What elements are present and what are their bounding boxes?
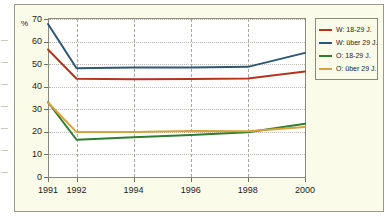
x-tick-mark [48, 178, 49, 182]
x-tick-mark [248, 178, 249, 182]
x-tick-mark [77, 178, 78, 182]
series-line-2 [48, 102, 305, 140]
chart-panel: % 70 60 50 40 30 20 10 0 1991 1992 1994 … [14, 4, 384, 212]
x-tick-label: 1992 [60, 185, 94, 195]
x-axis-line [48, 177, 306, 178]
y-tick-label: 60 [20, 37, 42, 46]
x-tick-label: 1994 [117, 185, 151, 195]
legend-item-label: W: über 29 J. [336, 39, 378, 47]
legend-item-label: O: 18-29 J. [336, 52, 371, 60]
legend-swatch-icon [319, 55, 332, 57]
x-tick-label: 1996 [174, 185, 208, 195]
y-tick-label: 0 [20, 173, 42, 182]
y-tick-label: 50 [20, 60, 42, 69]
legend-item[interactable]: W: 18-29 J. [319, 23, 374, 36]
legend-item-label: W: 18-29 J. [336, 26, 372, 34]
y-tick-label: 40 [20, 82, 42, 91]
series-layer [48, 19, 305, 177]
legend-item[interactable]: O: 18-29 J. [319, 49, 374, 62]
x-tick-mark [191, 178, 192, 182]
page-margin-strip [0, 0, 14, 219]
chart-screenshot: % 70 60 50 40 30 20 10 0 1991 1992 1994 … [0, 0, 387, 219]
legend-swatch-icon [319, 42, 332, 44]
legend-item[interactable]: O: über 29 J. [319, 62, 374, 75]
legend-item[interactable]: W: über 29 J. [319, 36, 374, 49]
series-line-3 [48, 103, 305, 133]
legend-swatch-icon [319, 29, 332, 31]
y-tick-label: 70 [20, 15, 42, 24]
y-tick-label: 30 [20, 105, 42, 114]
legend-swatch-icon [319, 68, 332, 70]
x-tick-mark [134, 178, 135, 182]
series-line-1 [48, 24, 305, 68]
legend-item-label: O: über 29 J. [336, 65, 376, 73]
y-tick-label: 10 [20, 150, 42, 159]
x-tick-mark [305, 178, 306, 182]
legend: W: 18-29 J. W: über 29 J. O: 18-29 J. O:… [315, 18, 378, 80]
series-line-0 [48, 49, 305, 79]
x-tick-label: 1998 [231, 185, 265, 195]
x-tick-label: 2000 [288, 185, 322, 195]
plot-right-border [305, 18, 306, 178]
y-tick-label: 20 [20, 127, 42, 136]
